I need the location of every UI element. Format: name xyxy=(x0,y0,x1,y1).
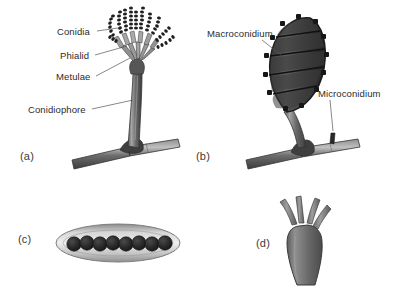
panel-letter-a: (a) xyxy=(20,150,34,162)
conidia-chain xyxy=(123,9,128,32)
leader-lines-a xyxy=(92,28,133,109)
foot-cell-a xyxy=(120,139,143,153)
basidium-highlight xyxy=(294,236,298,282)
macroconidium-septa xyxy=(269,31,325,94)
conidia-chains xyxy=(108,7,176,50)
sterigmata xyxy=(280,196,331,229)
conidia-chain xyxy=(108,35,119,44)
conidia-chain xyxy=(129,7,133,30)
ascospore xyxy=(67,237,81,251)
conidia-chain xyxy=(108,14,116,37)
conidia-chain xyxy=(151,16,162,35)
ascospore xyxy=(132,236,146,250)
sterigma xyxy=(307,198,320,224)
panel-letter-c: (c) xyxy=(18,233,31,245)
ascospore xyxy=(145,237,159,251)
conidia-chain xyxy=(134,11,138,30)
conidiophore-stalk xyxy=(128,73,142,148)
fungal-structures-figure: Conidia Phialid Metulae Conidiophore Mac… xyxy=(0,0,394,293)
leader-metulae xyxy=(96,58,130,76)
sterigma xyxy=(280,199,297,225)
metulae xyxy=(121,42,155,61)
label-macroconidium: Macroconidium xyxy=(207,28,273,39)
figure-artwork xyxy=(0,0,394,293)
leader-conidia xyxy=(97,28,118,31)
ascospore xyxy=(93,237,107,251)
ascospore xyxy=(158,236,172,250)
vesicle-a xyxy=(130,58,145,74)
label-phialid: Phialid xyxy=(60,50,89,61)
leader-conidiophore xyxy=(92,100,133,109)
conidia-chain xyxy=(156,35,176,50)
conidiophore-stalk-b xyxy=(284,107,306,148)
ascus-inner-outline xyxy=(63,230,173,256)
sterigma xyxy=(313,205,331,229)
phialides xyxy=(114,31,159,49)
microconidium xyxy=(330,133,335,144)
basidium-body xyxy=(287,225,322,285)
leader-microconidium xyxy=(330,100,333,131)
conidia-chain xyxy=(155,26,172,43)
conidia-chain xyxy=(145,12,153,32)
label-metulae: Metulae xyxy=(56,71,91,82)
sterigma xyxy=(296,196,304,223)
panel-d-artwork xyxy=(280,196,331,285)
leader-phialid xyxy=(95,46,127,55)
panel-letter-d: (d) xyxy=(256,237,270,249)
leader-macroconidium xyxy=(262,40,281,55)
panel-letter-b: (b) xyxy=(196,150,210,162)
conidia-chain xyxy=(117,10,124,34)
ascus-wall xyxy=(56,224,180,262)
foot-cell-b xyxy=(291,140,314,156)
ascospore xyxy=(106,236,120,250)
ascospores xyxy=(67,236,172,251)
conidia-chain xyxy=(139,7,145,30)
ascospore xyxy=(119,237,133,251)
hypha-a xyxy=(72,139,180,169)
macroconidium-compartments xyxy=(270,20,325,109)
label-conidiophore: Conidiophore xyxy=(28,104,86,115)
ascospore xyxy=(80,236,94,250)
panel-c-artwork xyxy=(56,224,180,262)
label-conidia: Conidia xyxy=(57,26,90,37)
hypha-b xyxy=(246,139,360,169)
label-microconidium: Microconidium xyxy=(318,88,381,99)
leader-lines-b xyxy=(262,40,333,131)
